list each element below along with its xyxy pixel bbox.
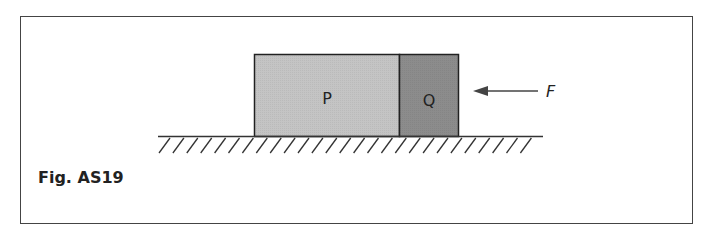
force-label: F — [546, 82, 556, 101]
block-p-label: P — [322, 89, 332, 108]
force-arrow-icon — [473, 86, 538, 96]
block-q-label: Q — [423, 91, 436, 110]
ground — [158, 137, 543, 154]
figure-caption: Fig. AS19 — [38, 168, 124, 187]
diagram: P Q F — [0, 0, 717, 234]
